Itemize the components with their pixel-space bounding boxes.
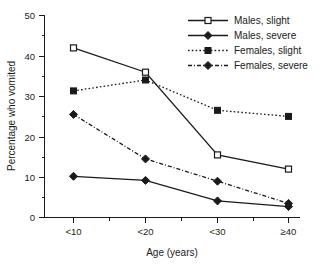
- y-tick-label-10: 10: [24, 172, 35, 183]
- x-tick-label-1: <20: [137, 226, 153, 237]
- data-point-females-severe-2: [214, 177, 222, 185]
- data-point-males-slight-2: [215, 152, 221, 158]
- data-point-females-slight-0: [71, 88, 77, 94]
- data-point-males-severe-2: [214, 197, 222, 205]
- series-males-severe: [70, 172, 293, 210]
- data-point-males-slight-0: [71, 45, 77, 51]
- data-point-females-slight-2: [215, 107, 221, 113]
- data-point-females-severe-1: [142, 155, 150, 163]
- x-tick-label-0: <10: [65, 226, 81, 237]
- x-tick-label-2: <30: [209, 226, 225, 237]
- data-point-females-slight-1: [143, 77, 149, 83]
- x-axis-title: Age (years): [146, 247, 198, 258]
- legend-marker-males-slight: [205, 18, 211, 24]
- data-point-females-slight-3: [286, 113, 292, 119]
- legend-marker-females-slight: [205, 48, 211, 54]
- data-point-males-slight-3: [286, 166, 292, 172]
- chart-legend: Males, slight Males, severe Females, sli…: [188, 15, 308, 71]
- data-point-males-severe-0: [70, 172, 78, 180]
- y-tick-label-30: 30: [24, 91, 35, 102]
- chart-figure: 50 40 30 20 10 0 <10 <20 <30 ≥40 Age (ye…: [0, 0, 326, 264]
- data-point-males-severe-1: [142, 176, 150, 184]
- series-females-severe: [70, 110, 293, 207]
- x-tick-label-3: ≥40: [281, 226, 297, 237]
- y-axis: 50 40 30 20 10 0: [24, 10, 44, 223]
- line-chart: 50 40 30 20 10 0 <10 <20 <30 ≥40 Age (ye…: [0, 0, 326, 264]
- legend-label-males-severe: Males, severe: [234, 30, 297, 41]
- legend-marker-females-severe: [204, 62, 212, 70]
- data-point-males-slight-1: [143, 69, 149, 75]
- series-females-slight-line: [74, 80, 289, 116]
- y-tick-label-20: 20: [24, 132, 35, 143]
- x-axis: <10 <20 <30 ≥40: [45, 218, 301, 238]
- y-axis-title: Percentage who vomited: [6, 61, 17, 171]
- legend-label-females-slight: Females, slight: [234, 45, 301, 56]
- y-tick-label-50: 50: [24, 10, 35, 21]
- y-tick-label-0: 0: [30, 212, 35, 223]
- series-males-severe-line: [74, 176, 289, 206]
- data-point-females-severe-0: [70, 110, 78, 118]
- y-tick-label-40: 40: [24, 51, 35, 62]
- legend-label-males-slight: Males, slight: [234, 15, 290, 26]
- legend-item-males-severe: Males, severe: [188, 30, 297, 41]
- legend-item-females-slight: Females, slight: [188, 45, 301, 56]
- legend-item-males-slight: Males, slight: [188, 15, 290, 26]
- legend-label-females-severe: Females, severe: [234, 60, 308, 71]
- legend-marker-males-severe: [204, 32, 212, 40]
- legend-item-females-severe: Females, severe: [188, 60, 308, 71]
